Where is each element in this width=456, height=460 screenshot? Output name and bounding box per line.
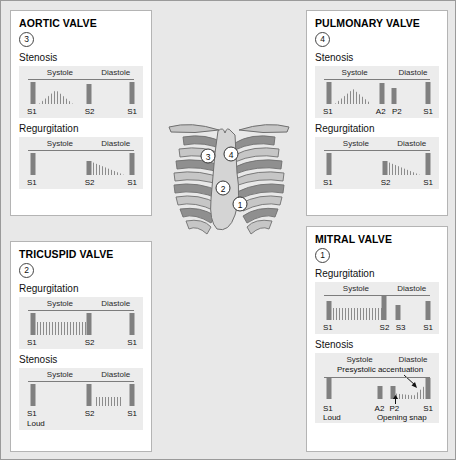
sound-label-s1-first: S1 xyxy=(323,107,333,116)
sound-bar-s2 xyxy=(86,84,91,104)
sound-label-s2: S2 xyxy=(85,107,95,116)
sound-bar-s2 xyxy=(381,296,386,320)
baseline xyxy=(28,381,134,382)
sound-bar-s1-first xyxy=(327,378,332,399)
marker-label-1: 1 xyxy=(238,200,243,210)
baseline xyxy=(28,79,134,80)
sound-bar-s1-first xyxy=(327,153,332,175)
sound-label-s1-second: S1 xyxy=(423,178,433,187)
lesion-title-mitral-regurgitation: Regurgitation xyxy=(315,268,439,280)
sound-label-s1-second: S1 xyxy=(423,107,433,116)
phase-label-systole: Systole xyxy=(342,68,368,77)
sound-bar-a2 xyxy=(378,386,383,399)
sound-label-s1-second: S1 xyxy=(423,323,433,332)
lesion-title-tricuspid-stenosis: Stenosis xyxy=(19,354,143,366)
phase-label-systole: Systole xyxy=(47,299,73,308)
card-tricuspid-valve[interactable]: TRICUSPID VALVE 2 Regurgitation Systole … xyxy=(10,241,152,452)
plot-area xyxy=(320,295,434,320)
phase-label-diastole: Diastole xyxy=(101,299,130,308)
sound-bar-s2 xyxy=(382,161,387,175)
sound-label-s1-second: S1 xyxy=(127,107,137,116)
sound-note-loud: Loud xyxy=(323,413,341,422)
phase-label-diastole: Diastole xyxy=(399,68,428,77)
sound-label-s1-first: S1 xyxy=(323,178,333,187)
site-number-tricuspid: 2 xyxy=(19,263,34,278)
sound-bar-s1-second xyxy=(426,378,431,399)
phonocardiogram-tricuspid-stenosis: Systole Diastole S1 S2 S1 Loud xyxy=(19,368,143,430)
sound-label-s2: S2 xyxy=(380,323,390,332)
sound-bar-s2 xyxy=(86,384,91,406)
sound-bar-p2 xyxy=(392,88,397,105)
phase-label-systole: Systole xyxy=(343,139,369,148)
card-title-pulmonary: PULMONARY VALVE xyxy=(315,17,439,29)
sound-bar-s1-second xyxy=(130,384,135,406)
sound-label-s1-first: S1 xyxy=(323,323,333,332)
sound-bar-s1-second xyxy=(426,301,431,321)
marker-label-4: 4 xyxy=(229,150,234,160)
plot-area xyxy=(24,381,138,406)
sound-note-loud: Loud xyxy=(27,419,45,428)
annotation-presystolic-accentuation: Presystolic accentuation xyxy=(337,365,423,374)
site-number-pulmonary: 4 xyxy=(315,32,330,47)
phonocardiogram-aortic-regurgitation: Systole Diastole S1 S2 S1 xyxy=(19,137,143,189)
phonocardiogram-tricuspid-regurgitation: Systole Diastole S1 S2 S1 xyxy=(19,297,143,349)
figure-root: AORTIC VALVE 3 Stenosis Systole Diastole… xyxy=(0,0,456,460)
lesion-title-tricuspid-regurgitation: Regurgitation xyxy=(19,283,143,295)
card-title-mitral: MITRAL VALVE xyxy=(315,233,439,245)
card-mitral-valve[interactable]: MITRAL VALVE 1 Regurgitation Systole Dia… xyxy=(306,226,448,452)
lesion-title-mitral-stenosis: Stenosis xyxy=(315,339,439,351)
card-pulmonary-valve[interactable]: PULMONARY VALVE 4 Stenosis Systole Diast… xyxy=(306,10,448,216)
phase-label-diastole: Diastole xyxy=(101,370,130,379)
phonocardiogram-pulmonary-stenosis: Systole Diastole S1 A2 P2 S1 xyxy=(315,66,439,118)
thorax-diagram: 3 4 2 1 xyxy=(161,113,297,241)
phase-label-diastole: Diastole xyxy=(397,139,426,148)
marker-4-pulmonary: 4 xyxy=(224,147,238,161)
sound-label-s1-first: S1 xyxy=(323,404,333,413)
sound-bar-s2 xyxy=(86,313,91,335)
phase-label-systole: Systole xyxy=(347,355,373,364)
phase-label-systole: Systole xyxy=(343,284,369,293)
sound-bar-s1-first xyxy=(31,384,36,406)
rib-cage-right-icon xyxy=(235,136,284,234)
sound-label-a2: A2 xyxy=(376,107,386,116)
sound-bar-s1-second xyxy=(426,82,431,104)
sound-label-p2: P2 xyxy=(392,107,402,116)
sound-label-s1-first: S1 xyxy=(27,409,37,418)
plot-area xyxy=(24,310,138,335)
sound-label-s1-second: S1 xyxy=(423,404,433,413)
card-title-aortic: AORTIC VALVE xyxy=(19,17,143,29)
sound-bar-s1-first xyxy=(327,82,332,104)
baseline xyxy=(324,150,430,151)
sound-bar-s1-second xyxy=(130,153,135,175)
phase-label-diastole: Diastole xyxy=(397,284,426,293)
card-aortic-valve[interactable]: AORTIC VALVE 3 Stenosis Systole Diastole… xyxy=(10,10,152,216)
phonocardiogram-pulmonary-regurgitation: Systole Diastole S1 S2 S1 xyxy=(315,137,439,189)
sound-bar-s2 xyxy=(86,161,91,175)
marker-3-aortic: 3 xyxy=(201,149,215,163)
sound-bar-s1-first xyxy=(327,301,332,321)
sound-label-s2: S2 xyxy=(381,178,391,187)
marker-2-tricuspid: 2 xyxy=(216,181,230,195)
sound-label-a2: A2 xyxy=(375,404,385,413)
sound-label-s1-first: S1 xyxy=(27,107,37,116)
phase-label-systole: Systole xyxy=(47,68,73,77)
murmur-mid-diastolic-rumble xyxy=(96,397,121,407)
sound-label-s1-first: S1 xyxy=(27,338,37,347)
plot-area xyxy=(320,79,434,104)
marker-1-mitral: 1 xyxy=(233,197,247,211)
lesion-title-pulmonary-regurgitation: Regurgitation xyxy=(315,123,439,135)
murmur-diastolic-decrescendo xyxy=(90,161,124,175)
murmur-holosystolic-plateau xyxy=(330,308,384,321)
sound-label-s3: S3 xyxy=(396,323,406,332)
sound-bar-s1-first xyxy=(31,313,36,335)
annotation-opening-snap: Opening snap xyxy=(377,413,427,422)
marker-label-2: 2 xyxy=(221,184,226,194)
plot-area xyxy=(24,150,138,175)
baseline xyxy=(28,150,134,151)
phase-label-diastole: Diastole xyxy=(101,68,130,77)
sound-label-s2: S2 xyxy=(85,409,95,418)
sound-bar-s1-second xyxy=(130,82,135,104)
phase-label-systole: Systole xyxy=(47,139,73,148)
sound-bar-s1-first xyxy=(31,153,36,175)
marker-label-3: 3 xyxy=(206,152,211,162)
